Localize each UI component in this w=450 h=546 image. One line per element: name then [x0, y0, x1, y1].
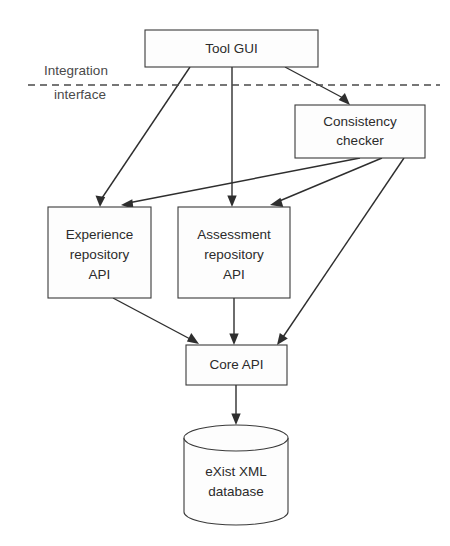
arrowhead	[231, 414, 240, 426]
assessment-repository-api-label-line1: Assessment	[197, 227, 271, 242]
experience-repository-api-label-line2: repository	[70, 247, 130, 262]
arrowhead	[229, 334, 238, 346]
edge-consistency-experience	[121, 158, 360, 209]
node-tool-gui[interactable]: Tool GUI	[145, 30, 318, 67]
node-assessment-repository-api[interactable]: Assessment repository API	[178, 207, 290, 298]
diagram-canvas: Integration interface Tool GUI Consisten…	[0, 0, 450, 546]
arrowhead	[227, 196, 236, 208]
arrowhead	[270, 198, 283, 207]
assessment-repository-api-label-line2: repository	[204, 247, 264, 262]
edge-experience-core	[113, 298, 199, 344]
node-consistency-checker[interactable]: Consistency checker	[295, 105, 425, 158]
arrowhead	[339, 93, 350, 105]
edge-consistency-core	[277, 158, 404, 345]
edge-toolgui-experience	[96, 67, 191, 207]
boundary-label-line2: interface	[54, 87, 106, 102]
consistency-checker-label-line2: checker	[336, 133, 384, 148]
node-exist-xml-database[interactable]: eXist XML database	[184, 425, 288, 525]
edge-toolgui-assessment	[227, 67, 236, 207]
edge-toolgui-consistency	[285, 67, 350, 105]
node-experience-repository-api[interactable]: Experience repository API	[48, 207, 151, 298]
boundary-label-line1: Integration	[44, 63, 108, 78]
architecture-diagram: Integration interface Tool GUI Consisten…	[0, 0, 450, 546]
core-api-label: Core API	[209, 357, 263, 372]
node-core-api[interactable]: Core API	[186, 345, 287, 385]
integration-interface-boundary: Integration interface	[28, 63, 440, 102]
arrowhead	[187, 333, 199, 344]
database-cylinder-top[interactable]	[184, 425, 288, 451]
arrowhead	[96, 196, 106, 208]
database-label-line2: database	[208, 484, 264, 499]
assessment-repository-api-label-line3: API	[223, 267, 245, 282]
database-label-line1: eXist XML	[205, 464, 267, 479]
edge-consistency-assessment	[270, 158, 382, 207]
consistency-checker-label-line1: Consistency	[323, 114, 397, 129]
experience-repository-api-label-line3: API	[89, 267, 111, 282]
experience-repository-api-label-line1: Experience	[66, 227, 134, 242]
edge-core-database	[231, 385, 240, 425]
tool-gui-label: Tool GUI	[205, 41, 258, 56]
arrowhead	[277, 333, 288, 345]
edge-assessment-core	[229, 298, 238, 345]
